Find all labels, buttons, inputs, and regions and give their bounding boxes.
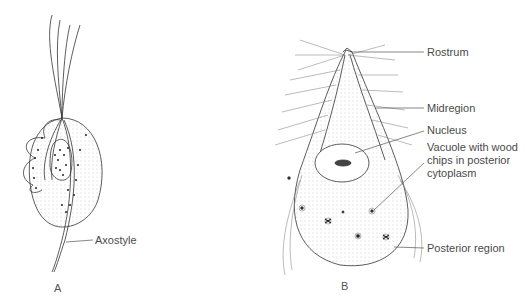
label-nucleus: Nucleus <box>427 124 467 137</box>
panel-label-a: A <box>54 282 61 294</box>
label-rostrum: Rostrum <box>427 46 469 59</box>
label-posterior-region: Posterior region <box>427 242 505 255</box>
label-axostyle: Axostyle <box>95 234 137 247</box>
label-vacuole: Vacuole with wood chips in posterior cyt… <box>427 141 518 180</box>
label-vacuole-line3: cytoplasm <box>427 167 518 180</box>
axostyle-leader-line <box>66 240 93 242</box>
organism-a <box>23 15 102 272</box>
organism-b <box>294 48 408 266</box>
label-vacuole-line2: chips in posterior <box>427 154 518 167</box>
label-midregion: Midregion <box>427 102 475 115</box>
panel-label-b: B <box>341 280 348 292</box>
label-vacuole-line1: Vacuole with wood <box>427 141 518 154</box>
